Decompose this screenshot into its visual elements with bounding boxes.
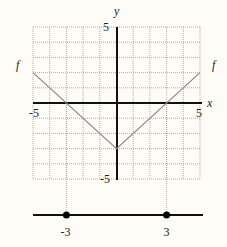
number-line-dot (163, 212, 170, 219)
number-line-point-label: 3 (164, 225, 170, 239)
x-max-tick-label: 5 (196, 106, 202, 120)
number-line-dot (63, 212, 70, 219)
function-label-left: f (16, 58, 21, 72)
number-line-point-label: -3 (60, 225, 70, 239)
y-max-tick-label: 5 (103, 20, 109, 34)
x-min-tick-label: -5 (29, 106, 39, 120)
function-label-right: f (212, 58, 217, 72)
graph-canvas: y x 5 -5 -5 5 f f -33 (0, 0, 227, 247)
y-min-tick-label: -5 (100, 172, 110, 186)
x-axis-label: x (206, 96, 213, 110)
y-axis-label: y (113, 4, 120, 18)
